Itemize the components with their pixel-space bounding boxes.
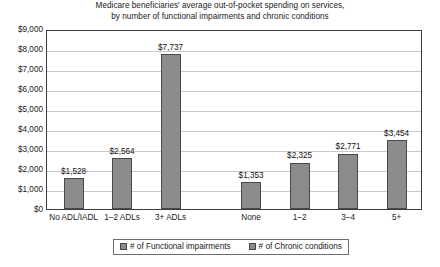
bar-value-label: $2,325 <box>287 152 312 160</box>
legend-label: # of Functional impairments <box>130 243 231 251</box>
bar-group: $7,737 <box>161 29 181 209</box>
chart-title: Medicare beneficiaries' average out-of-p… <box>0 1 440 22</box>
y-axis-tick-label: $0 <box>0 206 43 214</box>
x-axis-tick-label: 3+ ADLs <box>155 213 186 223</box>
x-axis-tick-label: 3–4 <box>341 213 355 223</box>
bar-group: $1,353 <box>241 29 261 209</box>
bar-group: $2,564 <box>112 29 132 209</box>
y-axis-tick-label: $1,000 <box>0 186 43 194</box>
bar-value-label: $1,353 <box>239 172 264 180</box>
bars-layer: $1,528$2,564$7,737$1,353$2,325$2,771$3,4… <box>46 30 422 210</box>
bar-group: $1,528 <box>64 29 84 209</box>
chart-title-line-2: by number of functional impairments and … <box>0 12 440 23</box>
y-axis-tick-label: $6,000 <box>0 86 43 94</box>
y-axis-tick-label: $5,000 <box>0 106 43 114</box>
bar[interactable] <box>112 158 132 209</box>
y-axis: $9,000$8,000$7,000$6,000$5,000$4,000$3,0… <box>0 30 43 210</box>
legend-label: # of Chronic conditions <box>259 243 342 251</box>
y-axis-tick-label: $3,000 <box>0 146 43 154</box>
x-axis-tick-label: No ADL/IADL <box>49 213 98 223</box>
legend-entry[interactable]: # of Chronic conditions <box>249 243 342 251</box>
legend-swatch-icon <box>249 243 256 250</box>
bar-group: $3,454 <box>387 29 407 209</box>
x-axis: No ADL/IADL1–2 ADLs3+ ADLsNone1–23–45+ <box>46 213 422 227</box>
x-axis-tick-label: None <box>241 213 261 223</box>
y-axis-tick-label: $4,000 <box>0 126 43 134</box>
bar-value-label: $7,737 <box>158 44 183 52</box>
legend-swatch-icon <box>120 243 127 250</box>
y-axis-tick-label: $2,000 <box>0 166 43 174</box>
y-axis-tick-label: $9,000 <box>0 26 43 34</box>
bar-group: $2,325 <box>290 29 310 209</box>
x-axis-tick-label: 5+ <box>392 213 401 223</box>
chart-legend: # of Functional impairments# of Chronic … <box>113 239 349 255</box>
x-axis-tick-label: 1–2 <box>293 213 307 223</box>
y-axis-tick-label: $8,000 <box>0 46 43 54</box>
bar[interactable] <box>64 178 84 209</box>
bar-chart-figure: Medicare beneficiaries' average out-of-p… <box>0 0 440 267</box>
bar-value-label: $2,564 <box>110 148 135 156</box>
bar[interactable] <box>290 163 310 210</box>
bar-value-label: $1,528 <box>61 168 86 176</box>
x-axis-tick-label: 1–2 ADLs <box>104 213 140 223</box>
bar[interactable] <box>338 154 358 209</box>
bar[interactable] <box>161 54 181 209</box>
bar[interactable] <box>241 182 261 209</box>
chart-title-line-1: Medicare beneficiaries' average out-of-p… <box>0 1 440 12</box>
y-axis-tick-label: $7,000 <box>0 66 43 74</box>
bar-value-label: $2,771 <box>336 143 361 151</box>
legend-entry[interactable]: # of Functional impairments <box>120 243 231 251</box>
bar-group: $2,771 <box>338 29 358 209</box>
bar[interactable] <box>387 140 407 209</box>
bar-value-label: $3,454 <box>384 130 409 138</box>
